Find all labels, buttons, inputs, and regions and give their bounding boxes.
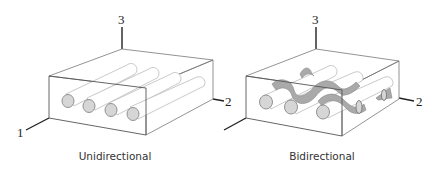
fiber-end-circle (83, 100, 95, 113)
axis-2-line (399, 98, 414, 101)
fiber-end-circle (127, 108, 139, 121)
axis-2-label: 2 (416, 94, 423, 109)
axis-1-label: 1 (17, 125, 24, 140)
unidirectional-panel: 3 1 2 (17, 12, 232, 140)
fiber-end-circle (260, 95, 273, 109)
unidirectional-caption: Unidirectional (79, 150, 152, 162)
axis-1-line (26, 118, 49, 130)
weft-end (356, 101, 362, 114)
axis-1-line (224, 118, 246, 130)
fiber-end-circle (317, 105, 330, 119)
bidirectional-panel: 3 2 (224, 12, 423, 136)
fiber-end-circle (285, 100, 298, 114)
axis-3-label: 3 (312, 12, 319, 27)
axis-2-label: 2 (225, 94, 232, 109)
composite-layup-diagram: 3 1 2 3 (0, 0, 448, 169)
bidirectional-caption: Bidirectional (289, 150, 355, 162)
axis-3-label: 3 (118, 12, 125, 27)
axis-2-line (213, 99, 224, 101)
diagram-svg: 3 1 2 3 (0, 0, 448, 169)
weft-end (382, 90, 387, 101)
fiber-end-circle (62, 95, 74, 108)
fiber-end-circle (105, 104, 117, 117)
